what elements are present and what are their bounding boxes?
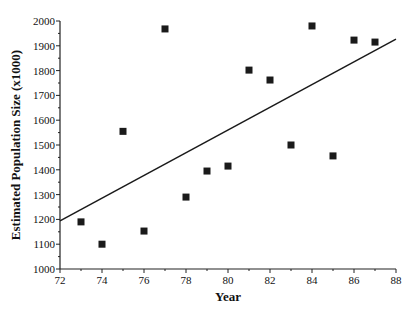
x-tick-label: 72 bbox=[55, 274, 66, 286]
data-point-square bbox=[372, 39, 379, 46]
x-tick-label: 86 bbox=[349, 274, 361, 286]
y-tick-label: 1000 bbox=[33, 263, 56, 275]
x-tick-label: 78 bbox=[181, 274, 193, 286]
data-point-square bbox=[246, 67, 253, 74]
data-point-square bbox=[204, 168, 211, 175]
y-tick-label: 1600 bbox=[33, 114, 56, 126]
data-point-square bbox=[225, 163, 232, 170]
y-tick-label: 1900 bbox=[33, 40, 56, 52]
trend-line bbox=[60, 39, 396, 221]
y-tick-label: 2000 bbox=[33, 15, 56, 27]
data-point-square bbox=[78, 218, 85, 225]
y-tick-label: 1400 bbox=[33, 164, 56, 176]
y-tick-label: 1100 bbox=[33, 238, 55, 250]
y-axis: 1000110012001300140015001600170018001900… bbox=[33, 15, 60, 275]
data-point-square bbox=[162, 25, 169, 32]
y-axis-title: Estimated Population Size (x1000) bbox=[8, 50, 23, 240]
y-tick-label: 1500 bbox=[33, 139, 56, 151]
x-tick-label: 80 bbox=[223, 274, 235, 286]
data-point-square bbox=[141, 228, 148, 235]
scatter-chart: 1000110012001300140015001600170018001900… bbox=[0, 0, 413, 315]
x-tick-label: 76 bbox=[139, 274, 151, 286]
x-tick-label: 82 bbox=[265, 274, 276, 286]
data-point-square bbox=[351, 37, 358, 44]
data-point-square bbox=[267, 77, 274, 84]
x-axis: 727476788082848688 bbox=[55, 269, 403, 286]
data-point-square bbox=[120, 128, 127, 135]
y-tick-label: 1200 bbox=[33, 213, 56, 225]
x-tick-label: 74 bbox=[97, 274, 109, 286]
data-point-square bbox=[99, 241, 106, 248]
data-point-square bbox=[330, 152, 337, 159]
data-point-square bbox=[183, 194, 190, 201]
data-points bbox=[78, 22, 379, 247]
data-point-square bbox=[309, 22, 316, 29]
y-tick-label: 1800 bbox=[33, 65, 56, 77]
x-tick-label: 88 bbox=[391, 274, 403, 286]
y-tick-label: 1700 bbox=[33, 89, 56, 101]
x-axis-title: Year bbox=[215, 289, 241, 304]
x-tick-label: 84 bbox=[307, 274, 319, 286]
data-point-square bbox=[288, 142, 295, 149]
y-tick-label: 1300 bbox=[33, 189, 56, 201]
